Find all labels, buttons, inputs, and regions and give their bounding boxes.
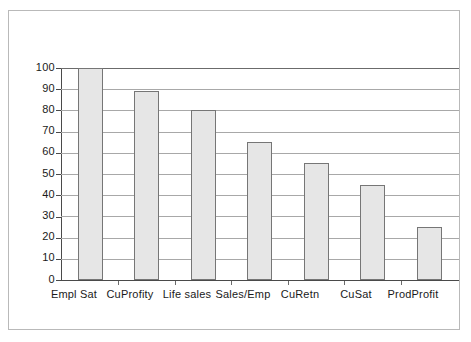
y-tick-label-10: 10 bbox=[11, 252, 55, 263]
bar-life-sales[interactable] bbox=[191, 110, 216, 280]
x-tick-mark-5 bbox=[344, 281, 345, 285]
chart-frame: 100 90 80 70 60 50 40 30 20 10 0 bbox=[8, 10, 460, 330]
bar-prodprofit[interactable] bbox=[417, 227, 442, 280]
plot-area bbox=[61, 68, 459, 280]
gridline-0-baseline bbox=[61, 280, 459, 281]
y-tick-label-40: 40 bbox=[11, 189, 55, 200]
bar-sales-emp[interactable] bbox=[247, 142, 272, 280]
x-tick-mark-6 bbox=[401, 281, 402, 285]
gridline-90 bbox=[61, 89, 459, 90]
y-tick-label-0: 0 bbox=[11, 274, 55, 285]
y-tick-label-100: 100 bbox=[11, 62, 55, 73]
y-tick-label-50: 50 bbox=[11, 168, 55, 179]
y-tick-label-30: 30 bbox=[11, 210, 55, 221]
gridline-80 bbox=[61, 110, 459, 111]
bar-cusat[interactable] bbox=[360, 185, 385, 280]
y-tick-label-20: 20 bbox=[11, 231, 55, 242]
x-tick-mark-2 bbox=[175, 281, 176, 285]
x-tick-mark-1 bbox=[118, 281, 119, 285]
gridline-70 bbox=[61, 132, 459, 133]
y-tick-label-60: 60 bbox=[11, 146, 55, 157]
x-tick-mark-4 bbox=[288, 281, 289, 285]
x-label-prodprofit: ProdProfit bbox=[373, 288, 453, 300]
gridline-100 bbox=[61, 68, 459, 69]
bar-cuprofity[interactable] bbox=[134, 91, 159, 280]
bar-empl-sat[interactable] bbox=[78, 68, 103, 280]
x-tick-mark-3 bbox=[231, 281, 232, 285]
y-tick-label-70: 70 bbox=[11, 125, 55, 136]
bar-curetn[interactable] bbox=[304, 163, 329, 280]
y-tick-label-90: 90 bbox=[11, 83, 55, 94]
y-tick-label-80: 80 bbox=[11, 104, 55, 115]
